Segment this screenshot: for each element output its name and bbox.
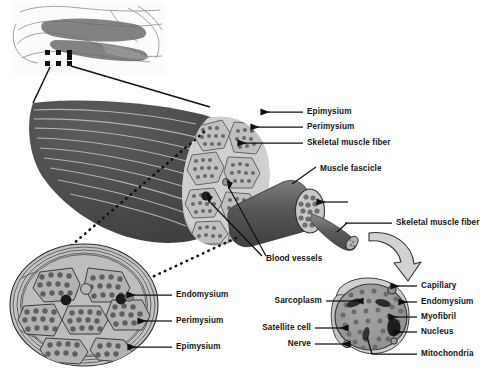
label-epimysium: Epimysium [307, 108, 352, 116]
muscle-anatomy-figure: Epimysium Perimysium Skeletal muscle fib… [0, 0, 493, 371]
label-mitochondria: Mitochondria [421, 350, 474, 358]
label-satellite-cell: Satellite cell [262, 324, 311, 332]
diagram-artwork [0, 0, 493, 371]
fascicle-magnifier-panel [10, 244, 158, 366]
label-blood-vessels: Blood vessels [266, 255, 322, 263]
label-epimysium-magnifier: Epimysium [176, 343, 221, 351]
label-endomysium-fiber-cell: Endomysium [421, 298, 473, 306]
label-sarcoplasm: Sarcoplasm [275, 297, 322, 305]
label-nerve: Nerve [288, 340, 311, 348]
label-capillary: Capillary [421, 282, 457, 290]
arm-inset-panel [13, 3, 165, 75]
muscle-fiber-cell-panel [331, 278, 409, 354]
label-perimysium-magnifier: Perimysium [176, 317, 223, 325]
label-myofibril: Myofibril [421, 313, 456, 321]
capillary-lower [391, 338, 397, 344]
label-endomysium-magnifier: Endomysium [176, 291, 228, 299]
label-muscle-fascicle: Muscle fascicle [320, 165, 382, 173]
label-perimysium: Perimysium [307, 123, 354, 131]
label-skeletal-muscle-fiber-2: Skeletal muscle fiber [396, 219, 480, 227]
label-skeletal-muscle-fiber: Skeletal muscle fiber [307, 139, 391, 147]
label-nucleus: Nucleus [421, 328, 454, 336]
magnification-curved-arrow [369, 233, 421, 281]
